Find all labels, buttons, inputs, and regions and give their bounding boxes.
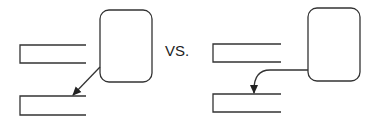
diagonal-arrow [73, 67, 100, 95]
right-diagram [213, 8, 360, 112]
upper-bracket [20, 45, 86, 63]
curved-arrow [254, 70, 308, 93]
left-diagram [20, 10, 152, 115]
source-box [100, 10, 152, 82]
lower-bracket [213, 94, 281, 112]
vs-label: VS. [165, 42, 189, 59]
lower-bracket [20, 96, 86, 115]
diagram-canvas [0, 0, 380, 121]
source-box [308, 8, 360, 81]
upper-bracket [213, 44, 281, 62]
